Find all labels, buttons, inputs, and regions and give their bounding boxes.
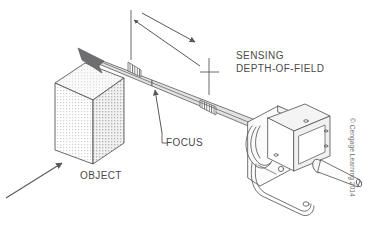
dimension-arrow-upper [142,13,195,42]
focus-pointer-arrow [155,90,162,133]
depth-of-field-label: DEPTH-OF-FIELD [236,63,324,75]
sensor-depth-of-field-diagram: SENSING DEPTH-OF-FIELD FOCUS OBJECT © Ce… [0,0,378,227]
focus-callout [155,90,168,143]
object-callout [6,163,62,198]
object-box [55,63,124,164]
object-direction-arrow [6,163,62,198]
sensor-foot-mount-hole [303,202,309,206]
focus-label: FOCUS [166,137,203,149]
diagram-canvas [0,0,378,227]
copyright-notice: © Cengage Learning 2014 [349,118,356,197]
sensing-label: SENSING [236,50,284,62]
object-label: OBJECT [80,170,122,182]
photoelectric-sensor [246,104,363,216]
